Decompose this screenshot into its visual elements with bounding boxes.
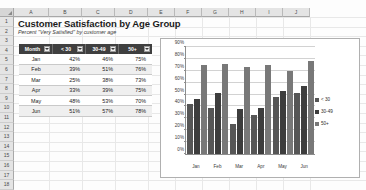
table-cell-a3049[interactable]: 51% <box>86 65 119 75</box>
row-header-2[interactable]: 2 <box>0 27 14 37</box>
column-header-e[interactable]: E <box>148 8 175 17</box>
spreadsheet-app: ABCDEFGHIJ 123456789101112131415161718 C… <box>0 0 366 190</box>
legend-swatch <box>315 110 319 114</box>
data-table: Month< 3030-4950+ Jan42%46%75%Feb39%51%7… <box>19 44 152 117</box>
column-header-j[interactable]: J <box>283 8 310 17</box>
row-header-4[interactable]: 4 <box>0 46 14 56</box>
column-header-d[interactable]: D <box>115 8 148 17</box>
bar[interactable] <box>273 97 279 154</box>
column-header-f[interactable]: F <box>175 8 202 17</box>
table-cell-month[interactable]: May <box>19 96 53 106</box>
table-cell-u30[interactable]: 39% <box>53 65 86 75</box>
table-cell-a50[interactable]: 78% <box>119 106 152 116</box>
column-header-g[interactable]: G <box>202 8 229 17</box>
table-header-cell[interactable]: Month <box>19 44 53 54</box>
row-header-9[interactable]: 9 <box>0 94 14 104</box>
table-header-cell[interactable]: 30-49 <box>86 44 119 54</box>
y-axis-tick-label: 20% <box>175 123 184 128</box>
table-cell-u30[interactable]: 48% <box>53 96 86 106</box>
filter-dropdown-icon[interactable] <box>144 46 150 52</box>
column-chart[interactable]: 0%10%20%30%40%50%60%70%80%90% JanFebMarA… <box>160 38 360 178</box>
bar[interactable] <box>201 65 207 154</box>
legend-item[interactable]: 30-49 <box>315 109 353 114</box>
table-cell-month[interactable]: Feb <box>19 65 53 75</box>
column-header-h[interactable]: H <box>229 8 256 17</box>
table-cell-a3049[interactable]: 46% <box>86 54 119 64</box>
bar[interactable] <box>230 124 236 154</box>
row-header-7[interactable]: 7 <box>0 75 14 85</box>
column-header-i[interactable]: I <box>256 8 283 17</box>
table-body: Jan42%46%75%Feb39%51%76%Mar25%38%73%Apr3… <box>19 54 152 116</box>
bar[interactable] <box>280 91 286 154</box>
bar[interactable] <box>251 115 257 154</box>
row-header-10[interactable]: 10 <box>0 103 14 113</box>
bar[interactable] <box>215 93 221 154</box>
bar[interactable] <box>187 104 193 154</box>
table-cell-a50[interactable]: 76% <box>119 65 152 75</box>
y-axis-tick-label: 40% <box>175 99 184 104</box>
table-cell-month[interactable]: Jun <box>19 106 53 116</box>
table-cell-u30[interactable]: 42% <box>53 54 86 64</box>
bar[interactable] <box>244 67 250 154</box>
column-header-c[interactable]: C <box>82 8 115 17</box>
table-cell-month[interactable]: Mar <box>19 75 53 85</box>
table-cell-a3049[interactable]: 39% <box>86 86 119 96</box>
bar[interactable] <box>258 108 264 154</box>
row-header-6[interactable]: 6 <box>0 65 14 75</box>
bar[interactable] <box>237 109 243 154</box>
table-cell-a50[interactable]: 73% <box>119 75 152 85</box>
table-cell-month[interactable]: Apr <box>19 86 53 96</box>
x-axis-tick-label: Mar <box>228 164 250 169</box>
table-cell-a3049[interactable]: 57% <box>86 106 119 116</box>
legend-item[interactable]: < 30 <box>315 97 353 102</box>
row-header-5[interactable]: 5 <box>0 55 14 65</box>
column-header-b[interactable]: B <box>49 8 82 17</box>
row-header-15[interactable]: 15 <box>0 151 14 161</box>
page-subtitle: Percent "Very Satisfied" by customer age <box>18 29 116 35</box>
table-cell-a3049[interactable]: 38% <box>86 75 119 85</box>
legend-label: < 30 <box>321 97 330 102</box>
table-cell-u30[interactable]: 33% <box>53 86 86 96</box>
table-cell-a50[interactable]: 75% <box>119 86 152 96</box>
table-cell-a50[interactable]: 70% <box>119 96 152 106</box>
bar-group <box>229 47 251 154</box>
table-cell-u30[interactable]: 25% <box>53 75 86 85</box>
row-header-8[interactable]: 8 <box>0 84 14 94</box>
select-all-corner[interactable] <box>0 8 14 17</box>
row-header-18[interactable]: 18 <box>0 180 14 190</box>
table-header-label: Month <box>21 46 44 52</box>
column-header-a[interactable]: A <box>14 8 49 17</box>
row-header-16[interactable]: 16 <box>0 161 14 171</box>
row-header-12[interactable]: 12 <box>0 123 14 133</box>
table-cell-a3049[interactable]: 53% <box>86 96 119 106</box>
table-row: Jun51%57%78% <box>19 106 152 116</box>
bar[interactable] <box>301 86 307 154</box>
table-header-cell[interactable]: < 30 <box>53 44 86 54</box>
row-header-11[interactable]: 11 <box>0 113 14 123</box>
bar[interactable] <box>265 65 271 154</box>
row-header-3[interactable]: 3 <box>0 36 14 46</box>
row-header-13[interactable]: 13 <box>0 132 14 142</box>
table-cell-month[interactable]: Jan <box>19 54 53 64</box>
bar[interactable] <box>294 93 300 154</box>
filter-dropdown-icon[interactable] <box>110 46 116 52</box>
filter-dropdown-icon[interactable] <box>77 46 83 52</box>
table-cell-a50[interactable]: 75% <box>119 54 152 64</box>
row-header-1[interactable]: 1 <box>0 17 14 27</box>
y-axis-tick-label: 0% <box>177 147 184 152</box>
chart-legend: < 3030-4950+ <box>315 97 353 133</box>
bar-group <box>272 47 294 154</box>
table-header-label: < 30 <box>55 46 77 52</box>
table-cell-u30[interactable]: 51% <box>53 106 86 116</box>
bar[interactable] <box>308 61 314 154</box>
filter-dropdown-icon[interactable] <box>44 46 50 52</box>
bar[interactable] <box>222 64 228 154</box>
bar[interactable] <box>208 108 214 154</box>
x-axis-tick-label: Jun <box>293 164 315 169</box>
bar[interactable] <box>287 71 293 154</box>
row-header-17[interactable]: 17 <box>0 171 14 181</box>
row-header-14[interactable]: 14 <box>0 142 14 152</box>
legend-item[interactable]: 50+ <box>315 121 353 126</box>
table-header-cell[interactable]: 50+ <box>119 44 152 54</box>
bar[interactable] <box>194 99 200 154</box>
